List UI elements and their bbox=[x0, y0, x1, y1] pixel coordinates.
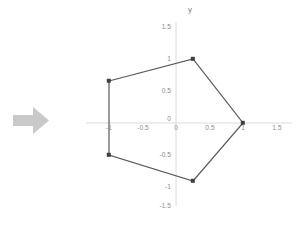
y-tick-label: -1 bbox=[165, 184, 171, 191]
data-point-marker bbox=[191, 179, 195, 183]
x-tick-label: -0.5 bbox=[137, 125, 149, 132]
x-tick-label: 1 bbox=[241, 125, 245, 132]
y-tick-label: 0.5 bbox=[162, 88, 171, 95]
x-tick-label: -1 bbox=[106, 125, 112, 132]
y-tick-label: -0.5 bbox=[159, 152, 171, 159]
x-tick-label: 0.5 bbox=[205, 125, 214, 132]
x-tick-label: 1.5 bbox=[272, 125, 281, 132]
data-point-marker bbox=[107, 153, 111, 157]
y-tick-label: -1.5 bbox=[159, 203, 171, 210]
y-tick-label: 0 bbox=[167, 116, 171, 123]
y-tick-label: 1.5 bbox=[162, 24, 171, 31]
x-tick-label: 0 bbox=[174, 125, 178, 132]
data-point-marker bbox=[191, 57, 195, 61]
plot-area bbox=[0, 0, 299, 227]
axes-lines bbox=[86, 22, 292, 206]
figure-canvas: y -1 -0.5 0 0.5 1 1.5 1.5 1 0.5 0 -0.5 -… bbox=[0, 0, 299, 227]
y-tick-label: 1 bbox=[167, 56, 171, 63]
chart-title: y bbox=[188, 6, 192, 14]
data-point-marker bbox=[107, 79, 111, 83]
